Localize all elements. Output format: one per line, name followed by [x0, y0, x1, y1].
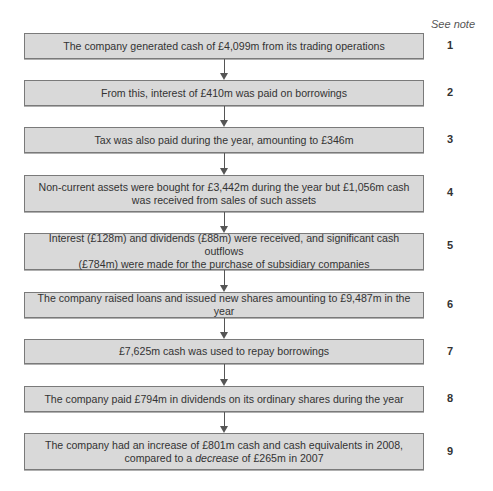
flow-box-text-line-2: was received from sales of such assets [132, 194, 316, 206]
flow-box-text: The company paid £794m in dividends on i… [44, 393, 403, 406]
flow-box-text-line-1: Non-current assets were bought for £3,44… [39, 181, 410, 193]
flow-box-5: Interest (£128m) and dividends (£88m) we… [24, 233, 424, 270]
flow-box-3: Tax was also paid during the year, amoun… [24, 127, 424, 153]
down-arrow-icon [220, 270, 229, 292]
note-number-9: 9 [444, 445, 456, 457]
note-number-1: 1 [444, 39, 456, 51]
down-arrow-icon [220, 318, 229, 339]
note-number-8: 8 [444, 392, 456, 404]
down-arrow-icon [220, 212, 229, 233]
text-fragment: compared to a [124, 452, 195, 464]
note-number-2: 2 [444, 86, 456, 98]
down-arrow-icon [220, 412, 229, 433]
emphasis-decrease: decrease [195, 452, 239, 464]
flow-box-7: £7,625m cash was used to repay borrowing… [24, 339, 424, 364]
flow-box-text-line-1: The company had an increase of £801m cas… [45, 439, 403, 451]
flow-box-text-line-2: compared to a decrease of £265m in 2007 [124, 452, 323, 464]
note-number-6: 6 [444, 298, 456, 310]
flow-box-4: Non-current assets were bought for £3,44… [24, 175, 424, 212]
flow-box-text: From this, interest of £410m was paid on… [101, 87, 347, 100]
flow-box-text: Tax was also paid during the year, amoun… [94, 134, 353, 147]
see-note-header: See note [431, 18, 475, 30]
down-arrow-icon [220, 106, 229, 127]
down-arrow-icon [220, 364, 229, 386]
flow-box-6: The company raised loans and issued new … [24, 292, 424, 318]
flow-box-text: The company generated cash of £4,099m fr… [63, 40, 385, 53]
flow-box-text-line-1: Interest (£128m) and dividends (£88m) we… [49, 232, 399, 257]
flow-box-text: Interest (£128m) and dividends (£88m) we… [33, 232, 415, 271]
flow-box-text: The company had an increase of £801m cas… [45, 439, 403, 465]
flow-box-9: The company had an increase of £801m cas… [24, 433, 424, 470]
flow-box-text: Non-current assets were bought for £3,44… [39, 181, 410, 207]
note-number-5: 5 [444, 239, 456, 251]
down-arrow-icon [220, 153, 229, 175]
flow-box-text-line-2: (£784m) were made for the purchase of su… [79, 258, 370, 270]
note-number-3: 3 [444, 133, 456, 145]
text-fragment: of £265m in 2007 [239, 452, 324, 464]
note-number-7: 7 [444, 345, 456, 357]
flow-box-2: From this, interest of £410m was paid on… [24, 80, 424, 106]
flow-box-1: The company generated cash of £4,099m fr… [24, 33, 424, 59]
down-arrow-icon [220, 59, 229, 80]
note-number-4: 4 [444, 186, 456, 198]
flow-box-text: £7,625m cash was used to repay borrowing… [119, 345, 329, 358]
flow-box-text: The company raised loans and issued new … [33, 292, 415, 318]
flow-box-8: The company paid £794m in dividends on i… [24, 386, 424, 412]
